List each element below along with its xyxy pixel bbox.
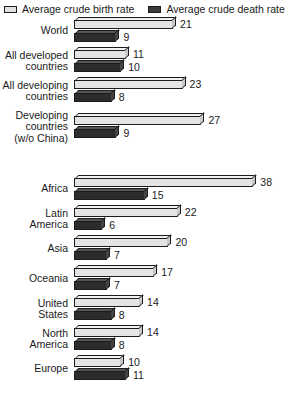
bar-birth-rate xyxy=(74,208,178,217)
bar-value-label: 14 xyxy=(147,327,159,338)
category-label: United States xyxy=(0,298,72,321)
legend-label-birth-rate: Average crude birth rate xyxy=(22,3,134,15)
category-label: All developed countries xyxy=(0,50,72,73)
bar-death-rate xyxy=(74,33,116,42)
bar-value-label: 9 xyxy=(123,32,129,43)
legend-swatch-birth-rate xyxy=(4,6,17,13)
bar-group: Africa3815 xyxy=(0,174,286,204)
bar-death-rate xyxy=(74,191,145,200)
category-label: Oceania xyxy=(0,273,72,285)
bar-death-rate xyxy=(74,341,112,350)
bar-death-rate xyxy=(74,93,112,102)
bar-birth-rate xyxy=(74,50,126,59)
category-label: World xyxy=(0,25,72,37)
bar-row: 9 xyxy=(74,127,286,140)
category-label: Asia xyxy=(0,243,72,255)
bar-death-rate xyxy=(74,63,121,72)
legend-item-death-rate: Average crude death rate xyxy=(148,3,284,15)
bar-value-label: 7 xyxy=(114,250,120,261)
bar-pair: 148 xyxy=(72,326,286,352)
bar-value-label: 10 xyxy=(128,357,140,368)
section-separator xyxy=(0,148,286,174)
bar-death-rate xyxy=(74,281,107,290)
bar-row: 8 xyxy=(74,339,286,352)
legend-item-birth-rate: Average crude birth rate xyxy=(4,3,134,15)
bar-chart-plot: World219All developed countries1110All d… xyxy=(0,16,286,384)
bar-group: Oceania177 xyxy=(0,264,286,294)
bar-pair: 177 xyxy=(72,266,286,292)
category-label: All developing countries xyxy=(0,80,72,103)
bar-value-label: 15 xyxy=(152,190,164,201)
bar-pair: 238 xyxy=(72,78,286,104)
bar-value-label: 20 xyxy=(175,237,187,248)
bar-birth-rate xyxy=(74,268,154,277)
category-label: Latin America xyxy=(0,208,72,231)
bar-pair: 3815 xyxy=(72,176,286,202)
bar-death-rate xyxy=(74,251,107,260)
bar-group: Latin America226 xyxy=(0,204,286,234)
bar-value-label: 10 xyxy=(128,62,140,73)
bar-pair: 219 xyxy=(72,18,286,44)
bar-birth-rate xyxy=(74,178,253,187)
bar-value-label: 8 xyxy=(119,92,125,103)
bar-pair: 207 xyxy=(72,236,286,262)
bar-group: United States148 xyxy=(0,294,286,324)
bar-value-label: 6 xyxy=(109,220,115,231)
legend-label-death-rate: Average crude death rate xyxy=(166,3,284,15)
bar-group: Developing countries (w/o China)279 xyxy=(0,106,286,148)
bar-death-rate xyxy=(74,221,102,230)
bar-group: All developed countries1110 xyxy=(0,46,286,76)
bar-birth-rate xyxy=(74,358,121,367)
bar-death-rate xyxy=(74,371,126,380)
bar-row: 8 xyxy=(74,309,286,322)
bar-value-label: 21 xyxy=(180,19,192,30)
bar-row: 10 xyxy=(74,61,286,74)
bar-row: 8 xyxy=(74,91,286,104)
bar-group: All developing countries238 xyxy=(0,76,286,106)
bar-pair: 226 xyxy=(72,206,286,232)
bar-birth-rate xyxy=(74,298,140,307)
bar-value-label: 11 xyxy=(133,370,144,381)
bar-pair: 1110 xyxy=(72,48,286,74)
category-label: North America xyxy=(0,328,72,351)
bar-value-label: 8 xyxy=(119,340,125,351)
bar-row: 7 xyxy=(74,279,286,292)
bar-value-label: 9 xyxy=(123,128,129,139)
bar-value-label: 17 xyxy=(161,267,173,278)
bar-group: Europe1011 xyxy=(0,354,286,384)
bar-value-label: 22 xyxy=(185,207,197,218)
bar-birth-rate xyxy=(74,80,183,89)
bar-value-label: 27 xyxy=(208,115,220,126)
bar-value-label: 23 xyxy=(190,79,202,90)
bar-value-label: 11 xyxy=(133,49,144,60)
bar-birth-rate xyxy=(74,238,168,247)
category-label: Africa xyxy=(0,183,72,195)
bar-death-rate xyxy=(74,129,116,138)
chart-legend: Average crude birth rateAverage crude de… xyxy=(0,0,286,16)
bar-row: 11 xyxy=(74,369,286,382)
bar-group: Asia207 xyxy=(0,234,286,264)
bar-row: 7 xyxy=(74,249,286,262)
bar-pair: 148 xyxy=(72,296,286,322)
bar-pair: 1011 xyxy=(72,356,286,382)
legend-swatch-death-rate xyxy=(148,6,161,13)
bar-pair: 279 xyxy=(72,114,286,140)
bar-row: 6 xyxy=(74,219,286,232)
bar-row: 15 xyxy=(74,189,286,202)
category-label: Europe xyxy=(0,363,72,375)
bar-value-label: 8 xyxy=(119,310,125,321)
bar-value-label: 38 xyxy=(260,177,272,188)
bar-value-label: 7 xyxy=(114,280,120,291)
bar-birth-rate xyxy=(74,116,201,125)
bar-row: 9 xyxy=(74,31,286,44)
bar-birth-rate xyxy=(74,20,173,29)
bar-death-rate xyxy=(74,311,112,320)
category-label: Developing countries (w/o China) xyxy=(0,110,72,145)
bar-birth-rate xyxy=(74,328,140,337)
bar-group: North America148 xyxy=(0,324,286,354)
bar-value-label: 14 xyxy=(147,297,159,308)
bar-group: World219 xyxy=(0,16,286,46)
